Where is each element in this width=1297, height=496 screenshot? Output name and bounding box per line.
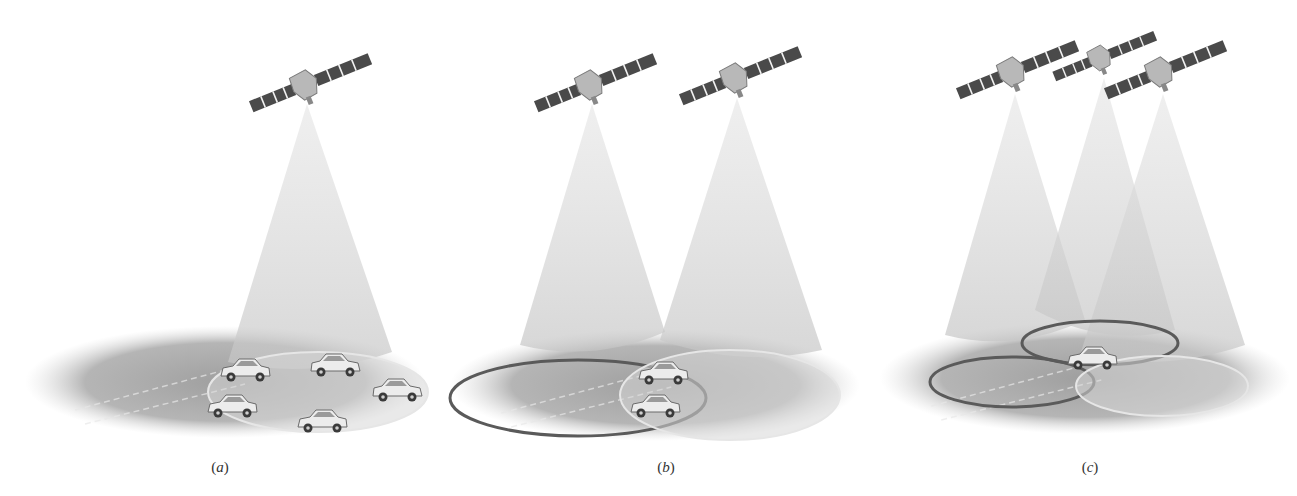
caption-b: (b): [657, 459, 675, 476]
satellite-coverage-figure: (a)(b)(c): [0, 0, 1297, 496]
caption-c: (c): [1082, 459, 1099, 476]
satellite-icon: [676, 39, 807, 118]
caption-a: (a): [211, 459, 229, 476]
panel-b: [450, 39, 860, 441]
panel-c: [880, 25, 1290, 434]
satellite-icon: [531, 46, 662, 125]
figure-container: (a)(b)(c): [0, 0, 1297, 496]
panel-a: [25, 46, 428, 438]
signal-cone: [228, 104, 392, 369]
satellite-icon: [246, 46, 377, 125]
signal-cone: [520, 104, 665, 352]
coverage-ring-light: [1076, 356, 1248, 416]
signal-cone: [660, 98, 822, 357]
